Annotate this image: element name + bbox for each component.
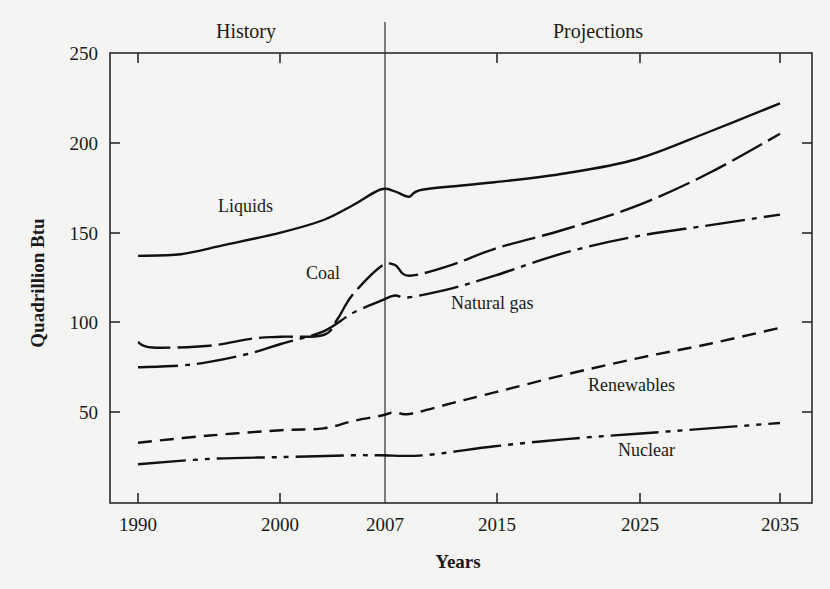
y-tick-label: 150	[70, 223, 99, 244]
projections-region-label: Projections	[553, 20, 643, 43]
x-tick-label: 2035	[761, 514, 799, 535]
series-label-liquids: Liquids	[218, 196, 273, 216]
energy-consumption-chart: History Projections 250 200 150 100 50 1…	[0, 0, 830, 589]
series-line-coal	[138, 134, 780, 348]
series-line-renewables	[138, 328, 780, 443]
history-region-label: History	[216, 20, 276, 43]
series-layer	[138, 103, 780, 464]
series-line-nuclear	[138, 423, 780, 464]
x-tick-label: 1990	[119, 514, 157, 535]
series-line-natural-gas	[138, 215, 780, 368]
series-label-coal: Coal	[306, 263, 340, 283]
y-axis-title: Quadrillion Btu	[27, 218, 48, 348]
x-tick-label: 2000	[261, 514, 299, 535]
y-tick-label: 100	[70, 312, 99, 333]
y-tick-label: 200	[70, 133, 99, 154]
x-axis-title: Years	[435, 551, 480, 572]
x-tick-label: 2025	[621, 514, 659, 535]
series-label-natural-gas: Natural gas	[451, 293, 533, 313]
x-tick-label: 2007	[366, 514, 404, 535]
series-label-nuclear: Nuclear	[618, 440, 675, 460]
series-line-liquids	[138, 103, 780, 256]
series-label-renewables: Renewables	[588, 375, 675, 395]
x-tick-label: 2015	[478, 514, 516, 535]
y-tick-label: 250	[70, 43, 99, 64]
y-axis: 250 200 150 100 50	[70, 43, 813, 423]
y-tick-label: 50	[79, 402, 98, 423]
